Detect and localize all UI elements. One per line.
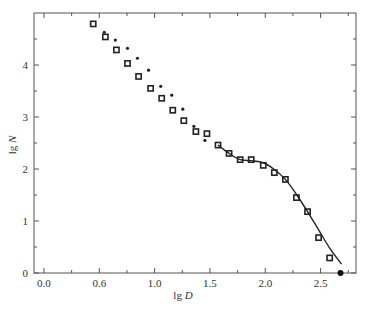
dot-point — [114, 38, 117, 41]
dot-point — [203, 139, 206, 142]
y-tick-label: 2 — [23, 163, 29, 175]
square-point — [125, 61, 130, 66]
dot-point — [147, 69, 150, 72]
square-point — [159, 96, 164, 101]
dot-point — [181, 108, 184, 111]
y-axis-title-prefix: lg — [6, 145, 18, 154]
x-tick-label: 1.0 — [148, 277, 162, 289]
series-squares — [91, 21, 333, 260]
y-tick-label: 0 — [23, 267, 29, 279]
y-axis-title: lg N — [6, 135, 18, 154]
square-point — [136, 74, 141, 79]
square-point — [114, 47, 119, 52]
x-axis-title-var: D — [184, 289, 193, 301]
x-tick-label: 0.0 — [37, 277, 51, 289]
plot-frame — [34, 13, 356, 273]
square-point — [103, 34, 108, 39]
chart: 0.00.61.01.52.02.5 01234 lg D lg N — [0, 0, 366, 310]
dot-point — [192, 125, 195, 128]
y-tick-label: 4 — [23, 59, 29, 71]
square-point — [327, 255, 332, 260]
x-tick-label: 2.5 — [314, 277, 328, 289]
square-point — [204, 131, 209, 136]
series-endpoint — [338, 270, 344, 276]
x-tick-label: 1.5 — [203, 277, 217, 289]
x-axis-title-prefix: lg — [173, 289, 182, 301]
dot-point — [136, 57, 139, 60]
y-tick-label: 1 — [23, 215, 29, 227]
dot-point — [170, 94, 173, 97]
x-tick-label: 2.0 — [258, 277, 272, 289]
dot-point — [126, 47, 129, 50]
fit-curve-line — [218, 145, 342, 264]
x-axis-title: lg D — [173, 289, 192, 301]
square-point — [193, 129, 198, 134]
dot-point — [103, 31, 106, 34]
square-point — [316, 235, 321, 240]
square-point — [91, 21, 96, 26]
y-axis-ticks: 01234 — [23, 39, 357, 279]
filled-point — [338, 270, 344, 276]
square-point — [148, 86, 153, 91]
x-tick-label: 0.6 — [92, 277, 106, 289]
dot-point — [159, 85, 162, 88]
y-axis-title-var: N — [6, 135, 18, 144]
x-axis-ticks: 0.00.61.01.52.02.5 — [37, 13, 348, 289]
y-tick-label: 3 — [23, 111, 29, 123]
series-fit-curve — [218, 145, 342, 264]
plot-border — [34, 13, 356, 273]
square-point — [170, 108, 175, 113]
series-layer — [91, 21, 344, 276]
square-point — [181, 118, 186, 123]
